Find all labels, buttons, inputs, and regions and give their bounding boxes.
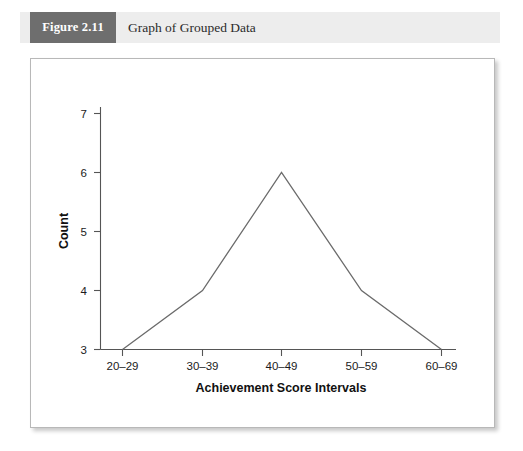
y-axis-ticks — [94, 114, 101, 350]
y-tick-label-6: 6 — [81, 167, 87, 179]
y-tick-label-5: 5 — [81, 226, 87, 238]
x-tick-label-2: 40–49 — [266, 360, 298, 372]
x-axis-ticks — [123, 350, 442, 357]
figure-number-badge: Figure 2.11 — [30, 12, 116, 43]
x-tick-label-0: 20–29 — [107, 360, 139, 372]
x-tick-label-1: 30–39 — [187, 360, 219, 372]
figure-caption-title: Graph of Grouped Data — [128, 12, 256, 43]
y-tick-label-7: 7 — [81, 108, 87, 120]
y-tick-label-3: 3 — [81, 344, 87, 356]
chart-plot-area: 7 6 5 4 3 Count 20–29 30–39 40–49 50–59 … — [31, 59, 496, 429]
line-chart-svg: 7 6 5 4 3 Count 20–29 30–39 40–49 50–59 … — [31, 59, 496, 429]
x-tick-label-4: 60–69 — [426, 360, 458, 372]
frequency-polygon-line — [123, 173, 442, 350]
x-tick-label-3: 50–59 — [346, 360, 378, 372]
y-axis-title: Count — [57, 212, 71, 249]
figure-panel: 7 6 5 4 3 Count 20–29 30–39 40–49 50–59 … — [30, 58, 495, 428]
figure-number-label: Figure 2.11 — [42, 20, 104, 35]
x-axis-title: Achievement Score Intervals — [196, 381, 367, 395]
y-tick-label-4: 4 — [81, 285, 88, 297]
